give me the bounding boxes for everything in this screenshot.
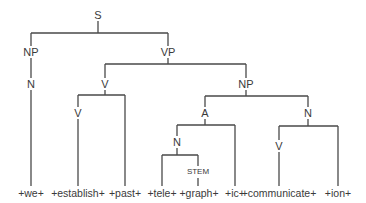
leaf-ion: +ion+ [325, 187, 351, 199]
node-s: S [93, 9, 102, 21]
node-n-right: N [303, 107, 313, 119]
node-v-right: V [274, 140, 283, 152]
leaf-we: +we+ [18, 187, 44, 199]
node-v-outer: V [100, 78, 109, 90]
leaf-communicate: +communicate+ [242, 187, 317, 199]
leaf-past: +past+ [109, 187, 141, 199]
syntax-tree-diagram: S NP N VP V V NP A N STEM N V +we+ +esta… [0, 0, 366, 203]
leaf-establish: +establish+ [51, 187, 105, 199]
leaf-graph: +graph+ [179, 187, 218, 199]
node-np-object: NP [237, 78, 254, 90]
node-stem: STEM [186, 166, 210, 178]
node-v-inner: V [73, 107, 82, 119]
node-n-compound: N [172, 136, 182, 148]
node-vp: VP [160, 46, 177, 58]
tree-edges [0, 0, 366, 203]
node-n-subject: N [26, 78, 36, 90]
node-np-subject: NP [22, 46, 39, 58]
node-a: A [200, 107, 209, 119]
leaf-tele: +tele+ [147, 187, 176, 199]
